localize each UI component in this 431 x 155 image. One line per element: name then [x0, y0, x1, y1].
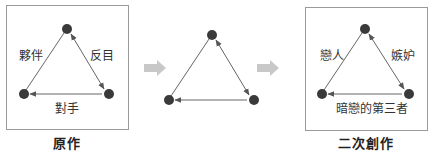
right-arrow-icon [257, 60, 279, 76]
caption-original: 原作 [45, 133, 89, 152]
node-left [19, 89, 29, 99]
node-top [62, 24, 72, 34]
triangle-middle [164, 30, 259, 105]
node-right [104, 89, 114, 99]
edge-label-right: 反目 [90, 46, 114, 63]
node-right [249, 95, 259, 105]
diagram-canvas [0, 0, 431, 155]
edge-right [216, 40, 249, 95]
edge-label-bottom: 對手 [55, 99, 79, 116]
node-left [317, 89, 327, 99]
edge-label-right: 嫉妒 [391, 46, 415, 63]
node-left [164, 95, 174, 105]
edge-label-left: 戀人 [320, 46, 344, 63]
right-arrow-icon [144, 60, 166, 76]
node-top [207, 30, 217, 40]
node-top [360, 24, 370, 34]
node-right [404, 89, 414, 99]
caption-derivative: 二次創作 [330, 133, 402, 152]
edge-label-left: 夥伴 [19, 46, 43, 63]
edge-label-bottom: 暗戀的第三者 [336, 99, 408, 116]
edge-left [171, 39, 209, 96]
